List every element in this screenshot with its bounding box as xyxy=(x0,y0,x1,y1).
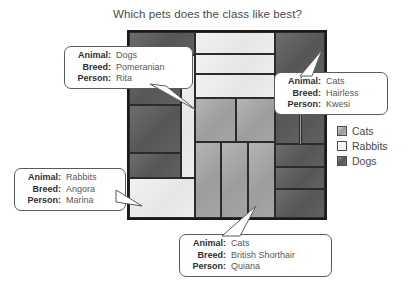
callout-tail-cats-british-shorthair xyxy=(0,0,415,290)
chart-canvas: Which pets does the class like best? Cat… xyxy=(0,0,415,290)
